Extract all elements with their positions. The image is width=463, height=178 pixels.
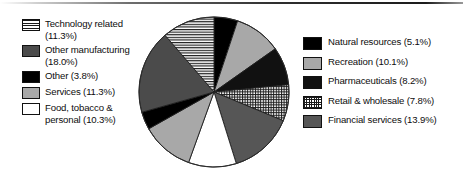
pie-chart (138, 16, 290, 168)
legend-left: Technology related (11.3%) Other manufac… (22, 18, 150, 129)
legend-label: Technology related (11.3%) (45, 18, 150, 41)
legend-swatch-food-tobacco-personal (22, 103, 40, 115)
legend-label: Services (11.3%) (45, 86, 150, 98)
legend-swatch-recreation (303, 57, 322, 70)
legend-swatch-other (22, 71, 40, 83)
legend-right: Natural resources (5.1%) Recreation (10.… (303, 36, 461, 134)
legend-item[interactable]: Services (11.3%) (22, 86, 150, 99)
legend-label: Other (3.8%) (45, 70, 150, 82)
pie-slice-group (139, 17, 289, 167)
legend-item[interactable]: Technology related (11.3%) (22, 18, 150, 41)
legend-item[interactable]: Other manufacturing (18.0%) (22, 44, 150, 67)
legend-label: Financial services (13.9%) (328, 114, 461, 126)
legend-item[interactable]: Financial services (13.9%) (303, 114, 461, 128)
legend-item[interactable]: Food, tobacco & personal (10.3%) (22, 102, 150, 125)
legend-swatch-other-manufacturing (22, 45, 40, 57)
legend-item[interactable]: Pharmaceuticals (8.2%) (303, 75, 461, 89)
top-divider-rule (0, 2, 463, 4)
legend-swatch-retail-wholesale (303, 96, 322, 109)
legend-label: Natural resources (5.1%) (328, 36, 461, 48)
legend-label: Pharmaceuticals (8.2%) (328, 75, 461, 87)
pie-chart-svg (138, 16, 290, 168)
legend-item[interactable]: Retail & wholesale (7.8%) (303, 95, 461, 109)
legend-item[interactable]: Other (3.8%) (22, 70, 150, 83)
legend-item[interactable]: Natural resources (5.1%) (303, 36, 461, 50)
legend-label: Recreation (10.1%) (328, 56, 461, 68)
legend-item[interactable]: Recreation (10.1%) (303, 56, 461, 70)
legend-label: Food, tobacco & personal (10.3%) (45, 102, 150, 125)
legend-swatch-services (22, 87, 40, 99)
legend-swatch-pharmaceuticals (303, 76, 322, 89)
legend-swatch-financial-services (303, 115, 322, 128)
legend-swatch-natural-resources (303, 37, 322, 50)
legend-label: Retail & wholesale (7.8%) (328, 95, 461, 107)
legend-label: Other manufacturing (18.0%) (45, 44, 150, 67)
legend-swatch-technology-related (22, 19, 40, 31)
